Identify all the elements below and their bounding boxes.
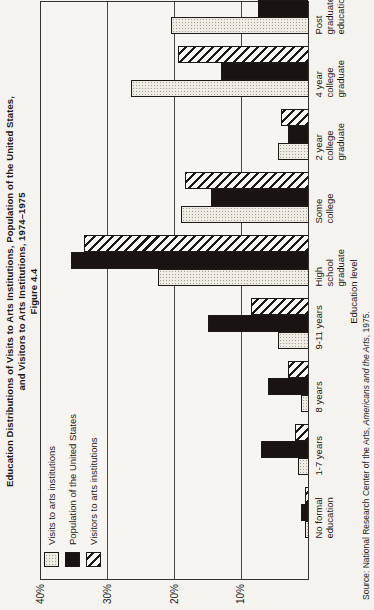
bar-stipple-no-formal-education [305,522,308,539]
bar-diagonal-hatch-post-graduate-education [235,0,308,1]
rotated-chart-canvas: Education Distributions of Visits to Art… [0,0,374,610]
x-axis-title: Education level [348,3,359,580]
category-label-8-years: 8 years [313,381,324,412]
bar-stipple-post-graduate-education [171,18,308,35]
bar-stipple-9-11-years [278,333,308,350]
hatch-swatch-icon [86,552,101,567]
source-suffix: , 1975. [361,311,371,337]
bar-solid-black-some-college [211,190,308,207]
bar-solid-black-8-years [268,379,308,396]
scanned-book-page: { "page": { "paper_color": "#f5f3ef", "i… [0,0,374,610]
chart-caption-line1: Education Distributions of Visits to Art… [4,3,16,580]
category-label-high-school-graduate: High school graduate [313,249,346,287]
y-tick-label-40: 40% [36,584,46,610]
legend-label-visitors: Visitors to arts institutions [88,437,99,545]
category-label-post-graduate-education: Post graduate education [313,0,346,35]
bar-solid-black-2-year-college-graduate [288,127,308,144]
bar-diagonal-hatch-9-11-years [251,299,308,316]
legend-item-visitors: Visitors to arts institutions [86,414,101,567]
bar-diagonal-hatch-some-college [185,173,308,190]
bar-solid-black-no-formal-education [301,505,308,522]
source-italic-title: Americans and the Arts [361,337,371,425]
legend-item-population: Population of the United States [65,414,80,567]
legend: Visits to arts institutions Population o… [44,414,107,567]
bar-stipple-some-college [181,207,308,224]
source-note: Source: National Research Center of the … [361,10,371,600]
bar-solid-black-1-7-years [261,442,308,459]
solid-black-swatch-icon [65,552,80,567]
bar-diagonal-hatch-high-school-graduate [84,236,308,253]
chart-title-block: Education Distributions of Visits to Art… [4,3,40,580]
chart-caption-line2: and Visitors to Arts Institutions, 1974–… [16,3,28,580]
gridline-30pct [107,2,108,579]
bar-stipple-1-7-years [298,459,308,476]
bar-diagonal-hatch-4-year-college-graduate [178,47,308,64]
source-prefix: Source: National Research Center of the … [361,425,371,600]
y-tick-label-10: 10% [236,584,246,610]
bar-solid-black-post-graduate-education [258,1,308,18]
category-label-no-formal-education: No formal education [313,497,335,538]
category-label-some-college: Some college [313,193,335,223]
bar-solid-black-9-11-years [208,316,308,333]
legend-label-population: Population of the United States [67,414,78,545]
bar-solid-black-high-school-graduate [71,253,308,270]
bar-solid-black-4-year-college-graduate [221,64,308,81]
legend-label-visits: Visits to arts institutions [46,446,57,545]
bar-diagonal-hatch-1-7-years [295,425,308,442]
category-label-1-7-years: 1-7 years [313,436,324,476]
legend-item-visits: Visits to arts institutions [44,414,59,567]
stipple-swatch-icon [44,552,59,567]
y-tick-label-20: 20% [170,584,180,610]
category-label-2-year-college-graduate: 2 year college graduate [313,123,346,161]
plot-area: Visits to arts institutions Population o… [40,1,309,580]
bar-stipple-4-year-college-graduate [131,81,308,98]
category-label-9-11-years: 9-11 years [313,305,324,349]
figure-number-label: Figure 4.4 [28,3,40,580]
bar-diagonal-hatch-2-year-college-graduate [281,110,308,127]
bar-stipple-high-school-graduate [158,270,308,287]
bar-stipple-2-year-college-graduate [278,144,308,161]
bar-stipple-8-years [301,396,308,413]
bar-diagonal-hatch-no-formal-education [305,488,308,505]
category-label-4-year-college-graduate: 4 year college graduate [313,60,346,98]
bar-diagonal-hatch-8-years [288,362,308,379]
y-tick-label-30: 30% [103,584,113,610]
